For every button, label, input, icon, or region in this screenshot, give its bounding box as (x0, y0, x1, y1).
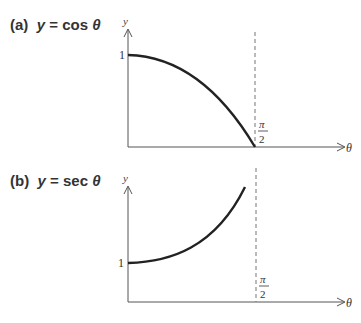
plot-a-x-label: θ (346, 141, 352, 155)
plot-b: y 1 π 2 θ (118, 168, 352, 310)
plot-b-tick-two: 2 (260, 288, 266, 300)
plot-a-curve (128, 55, 255, 147)
plot-b-y-label: y (122, 172, 128, 184)
plot-b-curve (128, 187, 245, 263)
plot-b-tick-one: 1 (118, 256, 124, 270)
plot-a: y 1 π 2 θ (119, 15, 352, 155)
plot-a-tick-two: 2 (259, 133, 265, 145)
plot-b-tick-pi: π (260, 273, 266, 285)
graphs-canvas: y 1 π 2 θ y 1 π 2 θ (0, 0, 361, 323)
plot-a-tick-pi: π (259, 118, 265, 130)
plot-a-tick-one: 1 (119, 48, 125, 62)
plot-b-x-label: θ (346, 296, 352, 310)
plot-a-y-label: y (122, 15, 128, 27)
